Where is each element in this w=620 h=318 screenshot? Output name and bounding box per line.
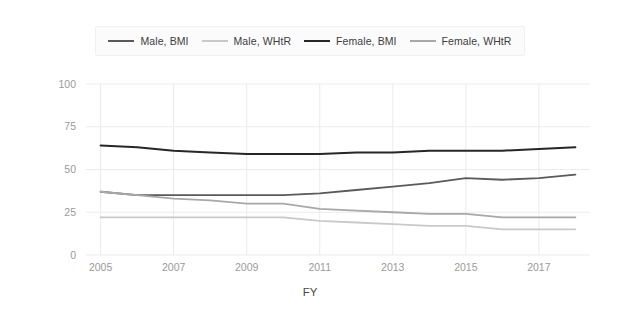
x-tick-label: 2009 (235, 261, 259, 273)
x-axis-ticks: 2005200720092011201320152017 (89, 261, 551, 273)
y-tick-label: 25 (64, 206, 76, 218)
series-lines (101, 146, 576, 230)
x-tick-label: 2005 (89, 261, 113, 273)
y-tick-label: 0 (70, 249, 76, 261)
series-line-male-whtr (101, 217, 576, 229)
y-tick-label: 75 (64, 120, 76, 132)
y-axis-ticks: 0255075100 (58, 78, 76, 261)
x-tick-label: 2013 (381, 261, 405, 273)
x-tick-label: 2017 (527, 261, 551, 273)
y-tick-label: 100 (58, 78, 76, 90)
y-tick-label: 50 (64, 163, 76, 175)
plot-area: 0255075100 2005200720092011201320152017 (0, 0, 620, 318)
x-axis-title: FY (0, 286, 620, 298)
series-line-female-bmi (101, 146, 576, 155)
x-tick-label: 2007 (162, 261, 186, 273)
series-line-male-bmi (101, 175, 576, 196)
chart-container: Male, BMI Male, WHtR Female, BMI Female,… (0, 0, 620, 318)
x-tick-label: 2011 (308, 261, 331, 273)
x-tick-label: 2015 (454, 261, 478, 273)
